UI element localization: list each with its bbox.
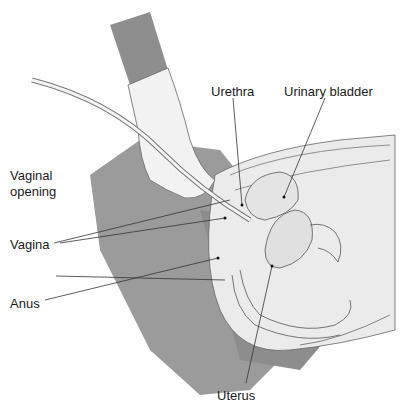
label-vagina: Vagina bbox=[10, 237, 50, 252]
label-vaginal-opening-line2: opening bbox=[10, 184, 56, 199]
label-urethra: Urethra bbox=[211, 84, 254, 99]
diagram-canvas: Urethra Urinary bladder Vaginal opening … bbox=[0, 0, 400, 410]
label-uterus: Uterus bbox=[217, 388, 255, 403]
anatomy-illustration bbox=[0, 0, 400, 410]
label-anus: Anus bbox=[10, 296, 40, 311]
label-vaginal-opening-line1: Vaginal bbox=[10, 168, 52, 183]
label-urinary-bladder: Urinary bladder bbox=[284, 84, 373, 99]
